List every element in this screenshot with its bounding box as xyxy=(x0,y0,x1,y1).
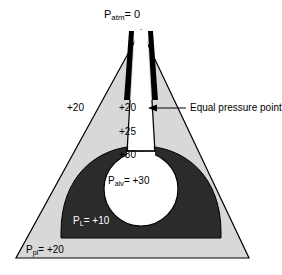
airway-pressure-lower-label: +30 xyxy=(119,150,136,160)
p-atm-label: Patm= 0 xyxy=(104,9,140,20)
pleural-pressure-left-label: +20 xyxy=(67,103,84,113)
p-pl-subscript: pl xyxy=(33,248,39,257)
equal-pressure-point-label: Equal pressure point xyxy=(190,103,282,113)
p-l-value: = +10 xyxy=(84,215,110,226)
p-pl-value: = +20 xyxy=(38,244,64,255)
alveolus-circle xyxy=(104,152,178,226)
p-atm-subscript: atm xyxy=(111,13,124,22)
airway-pressure-epp-label: +20 xyxy=(119,103,136,113)
p-alv-subscript: alv xyxy=(115,179,124,188)
p-alv-value: = +30 xyxy=(124,175,150,186)
p-l-label: PL= +10 xyxy=(73,216,109,226)
p-pl-label: Ppl= +20 xyxy=(26,245,64,255)
airway-pressure-mid-label: +25 xyxy=(119,127,136,137)
equal-pressure-point-diagram: Patm= 0 +20 +20 +25 +30 Palv= +30 PL= +1… xyxy=(0,0,282,275)
p-l-subscript: L xyxy=(80,219,84,228)
p-atm-value: = 0 xyxy=(125,8,141,20)
diagram-canvas xyxy=(0,0,282,275)
p-alv-label: Palv= +30 xyxy=(108,176,149,186)
